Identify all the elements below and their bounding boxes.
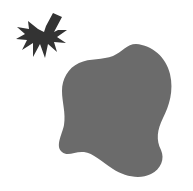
- silhouette-artwork: [0, 0, 193, 191]
- illustration-canvas: Strawberry silhouette illustration Flat …: [0, 0, 193, 191]
